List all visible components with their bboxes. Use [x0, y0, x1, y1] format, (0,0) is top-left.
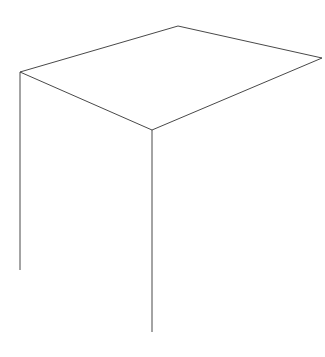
- box-frame: [20, 26, 322, 332]
- lego-plot: [0, 0, 325, 357]
